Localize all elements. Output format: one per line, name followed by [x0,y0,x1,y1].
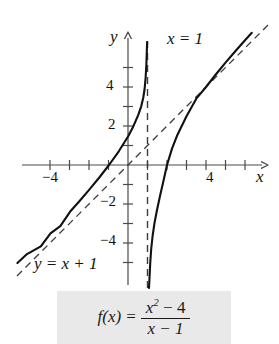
formula-left-hand-side: f(x) [98,307,122,327]
x-tick-label-positive-4: 4 [206,170,214,185]
x-tick-label-negative-4: −4 [42,170,58,185]
slant-asymptote-line [17,25,268,276]
formula-caption-box: f(x) = x2 − 4 x − 1 [57,291,231,344]
formula-numerator: x2 − 4 [141,296,191,318]
formula-equals-sign: = [126,307,136,327]
y-tick-label-positive-2: 2 [108,117,116,132]
formula-expression: f(x) = x2 − 4 x − 1 [98,296,191,339]
y-tick-label-negative-4: −4 [100,233,116,248]
rational-function-figure: y x −4 4 4 2 −2 −4 x = 1 y = x + 1 f(x) … [0,0,279,344]
formula-denominator: x − 1 [143,319,189,339]
y-axis-label: y [110,28,118,45]
y-tick-label-negative-2: −2 [100,194,116,209]
vertical-asymptote-label: x = 1 [167,30,203,47]
x-axis-label: x [256,168,264,185]
numerator-remainder: − 4 [163,298,185,317]
y-tick-label-positive-4: 4 [106,78,114,93]
formula-fraction: x2 − 4 x − 1 [141,296,191,339]
curve-right-branch [149,33,252,288]
slant-asymptote-label: y = x + 1 [34,255,98,272]
